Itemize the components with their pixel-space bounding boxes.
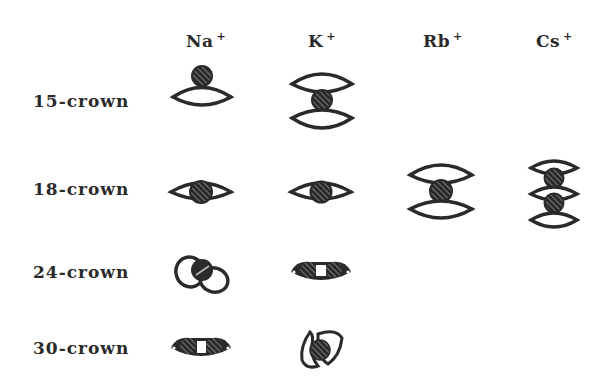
complex-15crown-k-sandwich-icon: [288, 66, 356, 136]
ion-symbol: Rb: [423, 31, 450, 51]
ion-symbol: K: [308, 31, 323, 51]
ion-charge: +: [217, 30, 227, 43]
ion-charge: +: [453, 30, 463, 43]
ion-symbol: Na: [186, 31, 214, 51]
complex-24crown-k-binuclear-icon: [288, 258, 354, 288]
complex-18crown-k-nesting-icon: [288, 176, 354, 210]
row-label-15-crown: 15-crown: [33, 91, 129, 111]
complex-18crown-na-nesting-icon: [168, 176, 234, 208]
complex-30crown-na-binuclear-icon: [168, 334, 234, 364]
row-label-18-crown: 18-crown: [33, 179, 129, 199]
column-header-k: K+: [308, 30, 336, 51]
complex-15crown-na-perching-icon: [170, 64, 234, 114]
column-header-na: Na+: [186, 30, 226, 51]
complex-24crown-na-wrapped-icon: [172, 252, 234, 296]
column-header-rb: Rb+: [423, 30, 463, 51]
ion-charge: +: [563, 30, 573, 43]
complex-18crown-cs-club-sandwich-icon: [528, 156, 580, 232]
row-label-24-crown: 24-crown: [33, 262, 129, 282]
complex-18crown-rb-sandwich-icon: [406, 157, 476, 225]
ion-symbol: Cs: [536, 31, 560, 51]
complex-30crown-k-wrapped-icon: [296, 326, 348, 372]
column-header-cs: Cs+: [536, 30, 573, 51]
ion-charge: +: [326, 30, 336, 43]
row-label-30-crown: 30-crown: [33, 338, 129, 358]
